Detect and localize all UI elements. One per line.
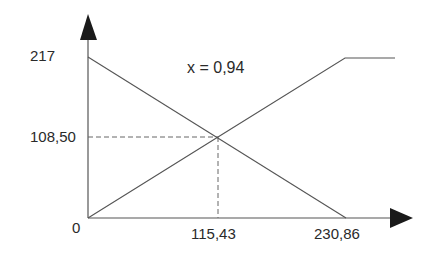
increasing-line: [88, 58, 395, 218]
x-axis-arrow-icon: [390, 208, 413, 228]
x-tick-230-86: 230,86: [314, 225, 360, 242]
y-tick-108-50: 108,50: [30, 128, 76, 145]
annotation-x-value: x = 0,94: [187, 59, 244, 77]
origin-label: 0: [72, 219, 80, 236]
x-tick-115-43: 115,43: [191, 225, 236, 242]
y-tick-217: 217: [30, 47, 55, 64]
y-axis-arrow-icon: [80, 14, 97, 40]
